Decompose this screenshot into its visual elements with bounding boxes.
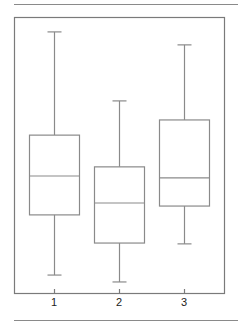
box-iqr [95, 167, 145, 243]
bottom-rule [14, 320, 238, 321]
box-plot [0, 0, 238, 329]
box-iqr [30, 135, 80, 215]
x-tick-label-2: 2 [109, 296, 129, 308]
box-iqr [160, 120, 210, 206]
x-tick-label-3: 3 [174, 296, 194, 308]
x-tick-label-1: 1 [44, 296, 64, 308]
